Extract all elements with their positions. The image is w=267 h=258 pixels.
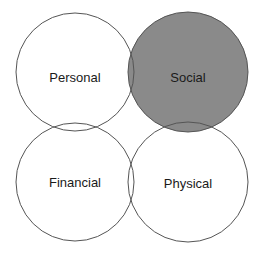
label-physical: Physical [164,176,213,191]
venn-diagram: Personal Social Financial Physical [0,0,267,258]
label-personal: Personal [49,70,100,85]
label-social: Social [170,70,206,85]
label-financial: Financial [49,175,101,190]
